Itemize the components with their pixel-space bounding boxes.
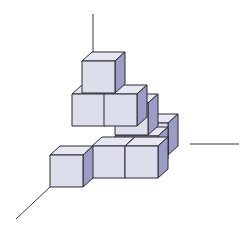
- unit-cube: [82, 52, 125, 93]
- cube-front-face: [72, 94, 105, 126]
- cubes: [50, 52, 178, 187]
- unit-cube: [50, 146, 93, 187]
- cube-front-face: [104, 94, 137, 126]
- cube-diagram: [0, 0, 251, 231]
- unit-cube: [125, 137, 168, 178]
- cube-front-face: [82, 61, 115, 93]
- left-axis: [16, 187, 50, 219]
- cube-front-face: [125, 146, 158, 178]
- cube-front-face: [92, 146, 125, 178]
- cube-stack-drawing: [0, 0, 251, 231]
- cube-front-face: [50, 155, 83, 187]
